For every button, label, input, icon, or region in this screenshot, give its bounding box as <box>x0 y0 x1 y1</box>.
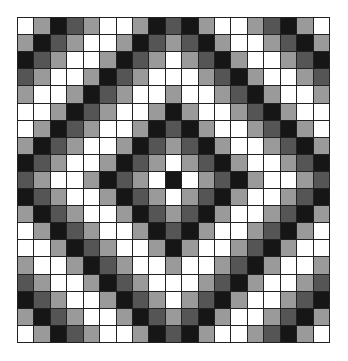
grid-cell <box>84 240 99 256</box>
grid-cell <box>133 104 148 120</box>
grid-cell <box>100 223 115 239</box>
grid-cell <box>67 189 82 205</box>
grid-cell <box>67 275 82 291</box>
grid-cell <box>51 155 66 171</box>
grid-cell <box>281 86 296 102</box>
grid-cell <box>166 52 181 68</box>
grid-cell <box>215 86 230 102</box>
grid-cell <box>117 69 132 85</box>
grid-cell <box>149 206 164 222</box>
grid-cell <box>149 69 164 85</box>
grid-cell <box>18 309 33 325</box>
grid-cell <box>264 206 279 222</box>
grid-cell <box>84 275 99 291</box>
grid-cell <box>199 172 214 188</box>
grid-cell <box>248 104 263 120</box>
grid-cell <box>297 138 312 154</box>
grid-cell <box>100 206 115 222</box>
grid-cell <box>117 326 132 342</box>
grid-cell <box>149 240 164 256</box>
grid-cell <box>215 35 230 51</box>
grid-cell <box>264 223 279 239</box>
grid-cell <box>18 326 33 342</box>
grid-cell <box>84 155 99 171</box>
grid-cell <box>231 189 246 205</box>
grid-cell <box>117 138 132 154</box>
grid-cell <box>18 172 33 188</box>
grid-cell <box>117 292 132 308</box>
grid-cell <box>248 206 263 222</box>
grid-cell <box>166 189 181 205</box>
grid-cell <box>264 309 279 325</box>
grid-cell <box>231 86 246 102</box>
grid-cell <box>100 189 115 205</box>
grid-cell <box>100 52 115 68</box>
grid-cell <box>100 155 115 171</box>
grid-cell <box>281 104 296 120</box>
grid-cell <box>199 326 214 342</box>
grid-cell <box>264 86 279 102</box>
grid-cell <box>34 275 49 291</box>
grid-cell <box>149 257 164 273</box>
grid-cell <box>248 52 263 68</box>
grid-cell <box>51 35 66 51</box>
grid-cell <box>18 189 33 205</box>
grid-cell <box>199 69 214 85</box>
grid-cell <box>215 172 230 188</box>
grid-cell <box>248 69 263 85</box>
grid-cell <box>297 35 312 51</box>
grid-cell <box>84 172 99 188</box>
grid-cell <box>281 223 296 239</box>
grid-cell <box>248 172 263 188</box>
grid-cell <box>297 121 312 137</box>
grid-cell <box>166 257 181 273</box>
grid-cell <box>231 309 246 325</box>
grid-cell <box>182 172 197 188</box>
grid-cell <box>231 172 246 188</box>
grid-cell <box>149 189 164 205</box>
grid-cell <box>84 206 99 222</box>
grid-cell <box>149 155 164 171</box>
grid-cell <box>34 18 49 34</box>
grid-cell <box>67 223 82 239</box>
grid-cell <box>248 309 263 325</box>
grid-cell <box>182 326 197 342</box>
grid-cell <box>281 155 296 171</box>
grid-cell <box>248 189 263 205</box>
grid-cell <box>182 189 197 205</box>
grid-cell <box>84 121 99 137</box>
grid-cell <box>182 309 197 325</box>
grid-cell <box>231 326 246 342</box>
grid-cell <box>34 309 49 325</box>
grid-cell <box>297 309 312 325</box>
grid-cell <box>117 52 132 68</box>
grid-cell <box>297 326 312 342</box>
grid-cell <box>67 206 82 222</box>
grid-cell <box>182 155 197 171</box>
grid-cell <box>231 35 246 51</box>
grid-cell <box>133 257 148 273</box>
grid-cell <box>231 104 246 120</box>
grid-cell <box>34 155 49 171</box>
grid-cell <box>297 69 312 85</box>
grid-cell <box>34 206 49 222</box>
grid-cell <box>215 18 230 34</box>
grid-cell <box>199 52 214 68</box>
grid-cell <box>51 18 66 34</box>
grid-cell <box>215 52 230 68</box>
grid-cell <box>51 104 66 120</box>
grid-cell <box>248 121 263 137</box>
grid-cell <box>264 155 279 171</box>
grid-cell <box>84 223 99 239</box>
grid-cell <box>51 206 66 222</box>
grid-cell <box>199 138 214 154</box>
grid-cell <box>264 240 279 256</box>
grid-cell <box>133 35 148 51</box>
grid-cell <box>166 138 181 154</box>
grid-cell <box>84 189 99 205</box>
grid-cell <box>34 189 49 205</box>
grid-cell <box>133 292 148 308</box>
grid-cell <box>18 121 33 137</box>
grid-cell <box>199 275 214 291</box>
grid-cell <box>231 292 246 308</box>
